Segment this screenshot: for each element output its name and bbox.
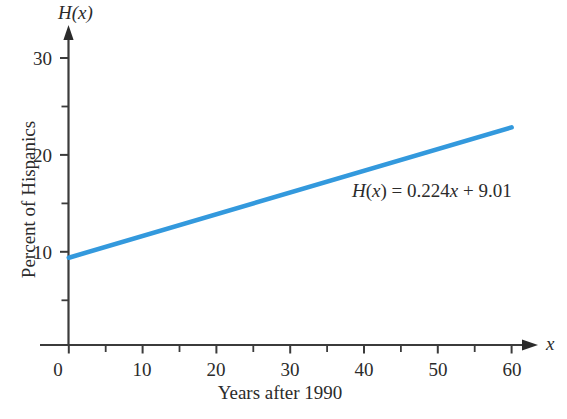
y-axis-title: Percent of Hispanics <box>19 100 38 300</box>
x-tick-label-20: 20 <box>196 360 236 379</box>
x-axis-title: Years after 1990 <box>190 383 370 402</box>
equation-fn-name: H <box>352 180 366 201</box>
x-tick-label-40: 40 <box>344 360 384 379</box>
equation-coefficient: 0.224 <box>407 180 450 201</box>
y-tick-label-30: 30 <box>8 49 52 68</box>
x-tick-label-60: 60 <box>492 360 532 379</box>
y-axis-major-ticks <box>60 58 69 252</box>
equation-var-1: x <box>372 180 380 201</box>
equation-annotation: H(x) = 0.224x + 9.01 <box>352 181 512 200</box>
x-axis-name-label: x <box>546 334 554 353</box>
x-tick-label-30: 30 <box>270 360 310 379</box>
equation-var-2: x <box>450 180 458 201</box>
x-axis-arrowhead <box>522 340 538 351</box>
x-tick-label-0: 0 <box>38 360 78 379</box>
chart-figure: H(x) x 10 20 30 0 10 20 30 40 50 60 Perc… <box>0 0 567 419</box>
x-tick-label-10: 10 <box>122 360 162 379</box>
y-axis-arrowhead <box>63 25 73 40</box>
y-axis-name-label: H(x) <box>58 3 93 22</box>
x-tick-label-50: 50 <box>418 360 458 379</box>
x-axis-major-ticks <box>69 345 512 354</box>
equation-constant: + 9.01 <box>458 180 511 201</box>
chart-canvas <box>0 0 567 419</box>
equation-equals: = <box>387 180 407 201</box>
